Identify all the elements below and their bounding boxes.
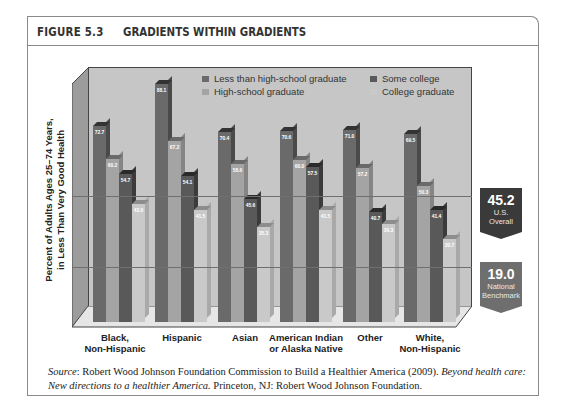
bar-value-label: 36.3 bbox=[382, 227, 395, 233]
bar: 71.0 bbox=[343, 130, 356, 322]
legend-swatch bbox=[370, 89, 377, 95]
bar-value-label: 57.5 bbox=[306, 170, 319, 176]
legend-label: Less than high-school graduate bbox=[214, 73, 347, 84]
bar: 35.3 bbox=[257, 227, 270, 322]
bar-value-label: 41.4 bbox=[430, 213, 443, 219]
bar-value-label: 69.5 bbox=[404, 137, 417, 143]
bar-face bbox=[244, 199, 257, 322]
us-overall-label-line2: Overall bbox=[480, 217, 522, 226]
bar-value-label: 35.3 bbox=[257, 230, 270, 236]
y-axis-label-line2: in Less Than Very Good Health bbox=[55, 118, 67, 281]
bar-face bbox=[417, 186, 430, 322]
legend-item-college-grad: College graduate bbox=[370, 86, 454, 97]
badge-arrow-shape bbox=[480, 306, 522, 313]
x-category-label: White,Non-Hispanic bbox=[385, 332, 475, 354]
bar-value-label: 41.5 bbox=[194, 213, 207, 219]
bar-value-label: 70.4 bbox=[218, 135, 231, 141]
bar-value-label: 57.2 bbox=[356, 171, 369, 177]
frame-bottom-border bbox=[27, 395, 539, 396]
y-axis-label: Percent of Adults Ages 25–74 Years, in L… bbox=[35, 85, 75, 315]
bar-value-label: 41.5 bbox=[319, 213, 332, 219]
bar-face bbox=[443, 239, 456, 322]
bar: 50.3 bbox=[417, 186, 430, 322]
bar: 60.0 bbox=[293, 160, 306, 322]
bar-face bbox=[343, 130, 356, 322]
bar-face bbox=[306, 167, 319, 322]
source-prefix: Source bbox=[48, 366, 77, 377]
bar: 88.1 bbox=[155, 84, 168, 322]
bar-value-label: 70.6 bbox=[280, 134, 293, 140]
benchmark-value: 19.0 bbox=[480, 262, 522, 282]
bar-face bbox=[231, 164, 244, 322]
figure-title: GRADIENTS WITHIN GRADIENTS bbox=[123, 24, 306, 39]
bar-face bbox=[293, 160, 306, 322]
bar-value-label: 54.1 bbox=[181, 179, 194, 185]
bar-value-label: 88.1 bbox=[155, 87, 168, 93]
us-overall-value: 45.2 bbox=[480, 188, 522, 208]
legend-label: College graduate bbox=[382, 86, 454, 97]
bar-value-label: 71.0 bbox=[343, 133, 356, 139]
bar-face bbox=[181, 176, 194, 322]
bar: 30.7 bbox=[443, 239, 456, 322]
legend-label: High-school graduate bbox=[214, 86, 304, 97]
bar: 67.2 bbox=[168, 141, 181, 322]
source-citation: Source: Robert Wood Johnson Foundation C… bbox=[48, 365, 528, 393]
legend-swatch bbox=[202, 76, 209, 82]
bar: 70.4 bbox=[218, 132, 231, 322]
bar-face bbox=[356, 168, 369, 322]
bar-side bbox=[456, 231, 460, 318]
bar-value-label: 67.2 bbox=[168, 144, 181, 150]
bar-value-label: 30.7 bbox=[443, 242, 456, 248]
legend-item-less-than-hs: Less than high-school graduate bbox=[202, 73, 347, 84]
legend-item-some-college: Some college bbox=[370, 73, 440, 84]
benchmark-reference-line bbox=[72, 267, 472, 268]
benchmark-badge: 19.0 National Benchmark bbox=[480, 262, 522, 306]
bar: 36.3 bbox=[382, 224, 395, 322]
bar-face bbox=[382, 224, 395, 322]
bar-face bbox=[168, 141, 181, 322]
bar-face bbox=[257, 227, 270, 322]
bar-value-label: 60.2 bbox=[106, 162, 119, 168]
bar-value-label: 72.7 bbox=[93, 129, 106, 135]
bar: 57.5 bbox=[306, 167, 319, 322]
us-overall-badge: 45.2 U.S. Overall bbox=[480, 188, 522, 232]
bar: 58.6 bbox=[231, 164, 244, 322]
bar-value-label: 45.6 bbox=[244, 202, 257, 208]
bar-value-label: 54.7 bbox=[119, 177, 132, 183]
legend-swatch bbox=[370, 76, 377, 82]
bar: 69.5 bbox=[404, 134, 417, 322]
bar: 45.6 bbox=[244, 199, 257, 322]
source-text-2: Princeton, NJ: Robert Wood Johnson Found… bbox=[211, 380, 422, 391]
source-text-1: : Robert Wood Johnson Foundation Commiss… bbox=[77, 366, 441, 377]
bar: 72.7 bbox=[93, 126, 106, 322]
bar-value-label: 50.3 bbox=[417, 189, 430, 195]
bar-value-label: 60.0 bbox=[293, 163, 306, 169]
bar: 57.2 bbox=[356, 168, 369, 322]
badge-arrow-shape bbox=[480, 232, 522, 239]
bar: 54.1 bbox=[181, 176, 194, 322]
bar: 60.2 bbox=[106, 159, 119, 322]
figure-header: FIGURE 5.3 GRADIENTS WITHIN GRADIENTS bbox=[28, 17, 538, 46]
bar-side bbox=[332, 202, 336, 318]
legend-item-hs-grad: High-school graduate bbox=[202, 86, 304, 97]
y-axis-label-line1: Percent of Adults Ages 25–74 Years, bbox=[43, 118, 55, 281]
bar-face bbox=[404, 134, 417, 322]
bar-side bbox=[145, 196, 149, 318]
figure-number: FIGURE 5.3 bbox=[37, 24, 104, 39]
bar-face bbox=[132, 204, 145, 322]
bar-face bbox=[155, 84, 168, 322]
bar-side bbox=[207, 202, 211, 318]
legend-swatch bbox=[202, 89, 209, 95]
bar-value-label: 43.6 bbox=[132, 207, 145, 213]
bar-face bbox=[106, 159, 119, 322]
bar-side bbox=[270, 219, 274, 318]
bar-value-label: 40.7 bbox=[369, 215, 382, 221]
benchmark-label-line1: National bbox=[480, 282, 522, 291]
legend-label: Some college bbox=[382, 73, 440, 84]
bar: 43.6 bbox=[132, 204, 145, 322]
chart-legend: Less than high-school graduate High-scho… bbox=[202, 73, 462, 103]
bar-value-label: 58.6 bbox=[231, 167, 244, 173]
bar-face bbox=[280, 131, 293, 322]
bar: 70.6 bbox=[280, 131, 293, 322]
us-overall-reference-line bbox=[72, 196, 472, 197]
